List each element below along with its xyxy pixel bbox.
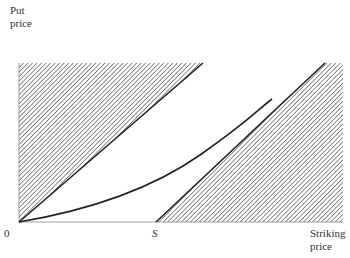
x-axis-label-line1: Striking (310, 227, 345, 240)
y-axis-label-line2: price (10, 17, 32, 30)
diagram-canvas (0, 0, 350, 258)
lower-infeasible-region (156, 63, 343, 222)
origin-label: 0 (4, 227, 10, 240)
strike-marker-label: S (152, 227, 158, 240)
y-axis-label: Put price (10, 4, 32, 30)
x-axis-label: Striking price (310, 227, 345, 253)
y-axis-label-line1: Put (10, 4, 32, 17)
x-axis-label-line2: price (310, 240, 345, 253)
